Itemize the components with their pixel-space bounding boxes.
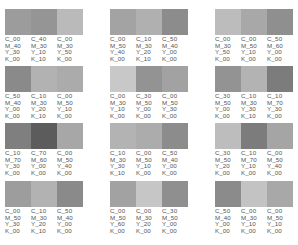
cmyk-k-value: K_00	[31, 170, 57, 177]
swatch-group: C_00M_50Y_40K_00C_10M_30Y_20K_10C_50M_40…	[110, 9, 188, 62]
swatch-labels: C_00M_40Y_30K_00C_40M_30Y_10K_10C_00M_30…	[5, 36, 83, 62]
cmyk-label: C_00M_50Y_40K_00	[110, 36, 136, 62]
cmyk-k-value: K_10	[136, 56, 162, 63]
cmyk-k-value: K_10	[31, 228, 57, 235]
cmyk-k-value: K_00	[241, 56, 267, 63]
cmyk-k-value: K_00	[5, 113, 31, 120]
cmyk-k-value: K_00	[5, 170, 31, 177]
color-swatch	[241, 9, 267, 35]
cmyk-k-value: K_10	[110, 170, 136, 177]
cmyk-k-value: K_00	[57, 56, 83, 63]
color-swatch	[136, 181, 162, 207]
swatch-strip	[215, 123, 293, 149]
cmyk-label: C_50M_40Y_00K_00	[162, 150, 188, 176]
color-swatch	[267, 181, 293, 207]
cmyk-label: C_10M_30Y_30K_10	[110, 150, 136, 176]
swatch-labels: C_50M_40Y_00K_00C_00M_30Y_10K_00C_00M_50…	[215, 208, 293, 234]
color-swatch	[241, 181, 267, 207]
color-swatch	[162, 9, 188, 35]
color-swatch	[110, 66, 136, 92]
cmyk-label: C_00M_50Y_10K_00	[267, 208, 293, 234]
cmyk-k-value: K_00	[215, 113, 241, 120]
cmyk-label: C_10M_70Y_10K_00	[241, 150, 267, 176]
color-swatch	[267, 66, 293, 92]
cmyk-k-value: K_00	[136, 113, 162, 120]
cmyk-label: C_10M_30Y_20K_10	[136, 36, 162, 62]
cmyk-label: C_00M_50Y_40K_00	[267, 150, 293, 176]
cmyk-label: C_10M_70Y_30K_00	[5, 150, 31, 176]
swatch-labels: C_00M_50Y_60K_00C_00M_30Y_20K_00C_30M_50…	[110, 208, 188, 234]
swatch-group: C_00M_50Y_60K_00C_00M_30Y_20K_00C_30M_50…	[110, 181, 188, 234]
cmyk-label: C_10M_70Y_30K_00	[267, 93, 293, 119]
color-swatch	[57, 9, 83, 35]
swatch-labels: C_10M_30Y_30K_10C_00M_50Y_10K_00C_50M_40…	[110, 150, 188, 176]
swatch-strip	[215, 181, 293, 207]
cmyk-k-value: K_00	[57, 170, 83, 177]
color-swatch	[110, 9, 136, 35]
cmyk-k-value: K_00	[241, 170, 267, 177]
swatch-labels: C_00M_30Y_10K_00C_30M_50Y_00K_00C_00M_50…	[110, 93, 188, 119]
color-swatch	[215, 66, 241, 92]
cmyk-label: C_00M_50Y_10K_00	[136, 150, 162, 176]
swatch-group: C_00M_40Y_30K_00C_40M_30Y_10K_10C_00M_30…	[5, 9, 83, 62]
swatch-strip	[5, 66, 83, 92]
cmyk-k-value: K_00	[215, 170, 241, 177]
cmyk-label: C_10M_30Y_20K_10	[31, 208, 57, 234]
color-swatch	[110, 123, 136, 149]
swatch-group: C_30M_50Y_20K_00C_10M_70Y_10K_00C_00M_50…	[215, 123, 293, 176]
color-swatch	[31, 9, 57, 35]
swatch-labels: C_00M_30Y_50K_00C_00M_50Y_10K_00C_50M_60…	[215, 36, 293, 62]
swatch-labels: C_30M_50Y_00K_00C_10M_30Y_30K_10C_10M_70…	[215, 93, 293, 119]
cmyk-k-value: K_00	[57, 228, 83, 235]
cmyk-k-value: K_00	[136, 170, 162, 177]
swatch-strip	[5, 9, 83, 35]
swatch-group: C_50M_40Y_00K_00C_10M_30Y_20K_10C_00M_50…	[5, 66, 83, 119]
cmyk-label: C_00M_50Y_40K_00	[57, 150, 83, 176]
cmyk-k-value: K_00	[110, 228, 136, 235]
swatch-strip	[110, 66, 188, 92]
swatch-labels: C_00M_50Y_40K_00C_10M_30Y_20K_10C_50M_40…	[110, 36, 188, 62]
color-swatch	[136, 66, 162, 92]
color-swatch	[57, 181, 83, 207]
cmyk-k-value: K_10	[31, 56, 57, 63]
color-swatch	[5, 66, 31, 92]
color-swatch	[5, 9, 31, 35]
swatch-group: C_50M_40Y_00K_00C_00M_30Y_10K_00C_00M_50…	[215, 181, 293, 234]
color-swatch	[215, 123, 241, 149]
color-swatch	[267, 9, 293, 35]
cmyk-label: C_00M_30Y_20K_00	[136, 208, 162, 234]
swatch-labels: C_10M_70Y_30K_00C_70M_60Y_00K_00C_00M_50…	[5, 150, 83, 176]
color-swatch	[162, 181, 188, 207]
swatch-strip	[215, 9, 293, 35]
cmyk-label: C_50M_40Y_00K_00	[5, 93, 31, 119]
cmyk-k-value: K_00	[162, 170, 188, 177]
cmyk-k-value: K_00	[267, 228, 293, 235]
swatch-labels: C_00M_50Y_30K_00C_10M_30Y_20K_10C_50M_40…	[5, 208, 83, 234]
cmyk-k-value: K_00	[5, 228, 31, 235]
cmyk-k-value: K_00	[136, 228, 162, 235]
cmyk-label: C_30M_50Y_00K_00	[215, 93, 241, 119]
cmyk-k-value: K_00	[267, 170, 293, 177]
cmyk-label: C_00M_50Y_10K_00	[241, 36, 267, 62]
cmyk-k-value: K_00	[110, 113, 136, 120]
cmyk-k-value: K_10	[241, 113, 267, 120]
cmyk-label: C_00M_50Y_30K_00	[5, 208, 31, 234]
cmyk-label: C_10M_30Y_30K_10	[241, 93, 267, 119]
color-swatch	[215, 9, 241, 35]
swatch-strip	[110, 181, 188, 207]
swatch-strip	[110, 123, 188, 149]
color-swatch	[5, 181, 31, 207]
cmyk-label: C_30M_50Y_20K_00	[215, 150, 241, 176]
cmyk-label: C_50M_60Y_00K_00	[267, 36, 293, 62]
color-swatch	[57, 66, 83, 92]
cmyk-k-value: K_00	[162, 228, 188, 235]
color-swatch	[241, 66, 267, 92]
color-swatch	[31, 181, 57, 207]
color-swatch	[215, 181, 241, 207]
cmyk-label: C_70M_60Y_00K_00	[31, 150, 57, 176]
swatch-group: C_00M_50Y_30K_00C_10M_30Y_20K_10C_50M_40…	[5, 181, 83, 234]
cmyk-k-value: K_00	[110, 56, 136, 63]
cmyk-k-value: K_00	[267, 56, 293, 63]
swatch-group: C_00M_30Y_10K_00C_30M_50Y_00K_00C_00M_50…	[110, 66, 188, 119]
color-swatch	[136, 123, 162, 149]
